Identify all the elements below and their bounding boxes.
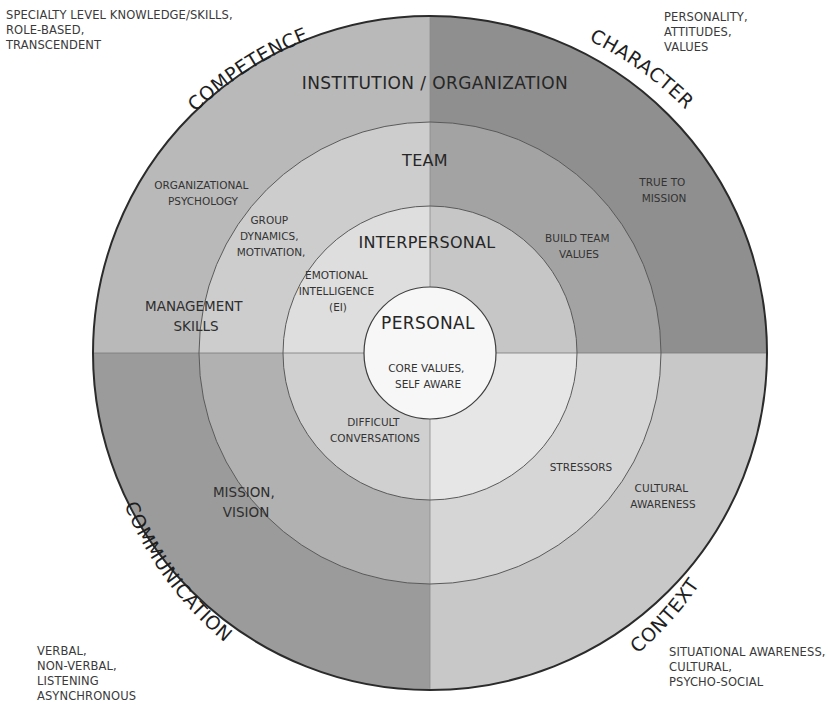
note-line: LISTENING [37,674,136,689]
note-line: PERSONALITY, [664,10,748,25]
title-interpersonal: INTERPERSONAL [358,233,495,252]
note-line: ATTITUDES, [664,25,748,40]
note-line: SPECIALTY LEVEL KNOWLEDGE/SKILLS, [6,8,233,23]
note-line: ROLE-BASED, [6,23,233,38]
note-communication: VERBAL, NON-VERBAL, LISTENING ASYNCHRONO… [37,644,136,704]
title-institution: INSTITUTION / ORGANIZATION [302,73,568,93]
note-line: VALUES [664,40,748,55]
note-line: NON-VERBAL, [37,659,136,674]
note-line: PSYCHO-SOCIAL [669,675,826,690]
note-line: CULTURAL, [669,660,826,675]
title-team: TEAM [401,151,448,170]
title-personal: PERSONAL [381,313,475,333]
note-line: TRANSCENDENT [6,38,233,53]
note-context: SITUATIONAL AWARENESS, CULTURAL, PSYCHO-… [669,645,826,690]
note-competence: SPECIALTY LEVEL KNOWLEDGE/SKILLS, ROLE-B… [6,8,233,53]
item-stressors: STRESSORS [550,461,613,473]
note-character: PERSONALITY, ATTITUDES, VALUES [664,10,748,55]
note-line: ASYNCHRONOUS [37,689,136,704]
personal-circle [364,287,496,419]
note-line: VERBAL, [37,644,136,659]
concentric-diagram: COMPETENCE CHARACTER COMMUNICATION CONTE… [0,0,835,719]
note-line: SITUATIONAL AWARENESS, [669,645,826,660]
